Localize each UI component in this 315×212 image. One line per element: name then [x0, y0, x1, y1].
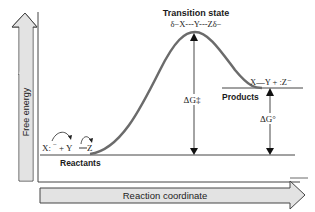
reactants-label: Reactants	[60, 158, 101, 168]
activation-energy-label: ΔG‡	[184, 95, 201, 105]
transition-state-formula: δ−X---Y---Zδ−	[170, 19, 221, 29]
x-axis-label: Reaction coordinate	[123, 190, 208, 201]
products-formula: X—Y + :Z⁻	[250, 77, 292, 87]
reaction-energy-label: ΔG°	[260, 114, 276, 124]
products-label: Products	[222, 92, 259, 102]
reaction-energy-diagram: Free energy Reaction coordinate Transiti…	[0, 0, 315, 212]
transition-state-label: Transition state	[163, 8, 230, 18]
svg-text:Z: Z	[87, 143, 93, 153]
reactants-formula: X: − + Y Z	[42, 132, 93, 153]
svg-text:X:: X:	[42, 143, 51, 153]
y-axis-label: Free energy	[21, 87, 31, 136]
svg-text:−: −	[53, 141, 57, 149]
svg-text:+ Y: + Y	[59, 143, 73, 153]
